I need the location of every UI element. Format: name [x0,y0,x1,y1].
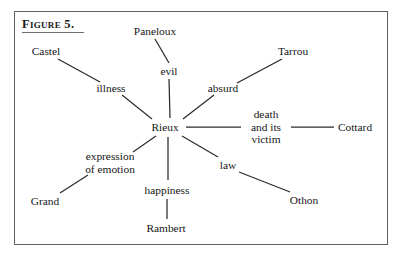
node-rambert: Rambert [146,222,185,235]
node-evil: evil [160,65,177,78]
node-castel: Castel [32,45,60,58]
figure-title: Figure 5. [22,17,74,32]
node-castel-line: Castel [32,45,60,58]
node-death-line: and its [251,121,281,134]
node-happiness-line: happiness [145,184,190,197]
node-absurd: absurd [208,82,238,95]
node-tarrou-line: Tarrou [278,45,308,58]
node-death-line: death [251,108,281,121]
node-grand-line: Grand [31,195,59,208]
node-cottard: Cottard [338,121,372,134]
node-cottard-line: Cottard [338,121,372,134]
node-rambert-line: Rambert [146,222,185,235]
node-happiness: happiness [145,184,190,197]
node-paneloux: Paneloux [134,25,176,38]
figure-title-rule [22,32,84,33]
node-law-line: law [220,159,236,172]
node-paneloux-line: Paneloux [134,25,176,38]
node-evil-line: evil [160,65,177,78]
node-rieux-line: Rieux [151,121,178,134]
figure-page: Figure 5. PanelouxCastelTarrouevilillnes… [0,0,403,260]
node-illness-line: illness [96,82,125,95]
node-tarrou: Tarrou [278,45,308,58]
node-absurd-line: absurd [208,82,238,95]
node-othon-line: Othon [290,194,318,207]
node-death: deathand itsvictim [251,108,281,146]
node-expression: expressionof emotion [85,150,135,175]
node-law: law [220,159,236,172]
figure-frame-border [14,11,388,245]
node-expression-line: of emotion [85,163,135,176]
node-expression-line: expression [85,150,135,163]
node-illness: illness [96,82,125,95]
node-rieux: Rieux [151,121,178,134]
node-grand: Grand [31,195,59,208]
node-othon: Othon [290,194,318,207]
node-death-line: victim [251,133,281,146]
